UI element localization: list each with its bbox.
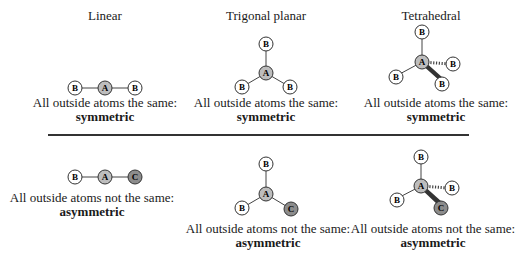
molecule-tetrahedral-asymmetric: B A B B C [390, 145, 470, 220]
svg-text:A: A [263, 189, 270, 199]
atom-b: B [390, 193, 404, 207]
caption-linear-asymmetric: All outside atoms not the same: asymmetr… [0, 191, 187, 219]
atom-b: B [415, 25, 429, 39]
atom-a: A [415, 55, 429, 69]
caption-text: All outside atoms the same: [194, 95, 338, 110]
symmetry-label: symmetric [171, 110, 361, 124]
svg-text:B: B [393, 72, 399, 82]
svg-text:B: B [450, 59, 456, 69]
symmetry-label: asymmetric [0, 205, 187, 219]
caption-text: All outside atoms not the same: [186, 221, 350, 236]
svg-text:B: B [439, 79, 445, 89]
atom-b: B [445, 181, 459, 195]
caption-tetrahedral-symmetric: All outside atoms the same: symmetric [341, 96, 522, 124]
svg-text:A: A [263, 68, 270, 78]
svg-text:B: B [132, 83, 138, 93]
atom-a: A [98, 81, 112, 95]
caption-text: All outside atoms the same: [364, 95, 508, 110]
atom-a: A [259, 187, 273, 201]
column-title-linear: Linear [25, 8, 185, 24]
svg-text:B: B [239, 203, 245, 213]
molecule-linear-asymmetric: B A C [60, 167, 150, 187]
caption-tetrahedral-asymmetric: All outside atoms not the same: asymmetr… [338, 222, 522, 250]
molecule-trigonal-planar-symmetric: B A B B [225, 30, 305, 95]
atom-c: C [128, 170, 142, 184]
atom-b: B [389, 70, 403, 84]
svg-text:B: B [72, 83, 78, 93]
svg-text:A: A [418, 181, 425, 191]
atom-b: B [259, 157, 273, 171]
row-divider [48, 134, 469, 136]
atom-b: B [68, 170, 82, 184]
caption-trigonal-asymmetric: All outside atoms not the same: asymmetr… [173, 222, 363, 250]
atom-b: B [68, 81, 82, 95]
svg-text:B: B [418, 152, 424, 162]
atom-c: C [284, 202, 298, 216]
svg-text:B: B [263, 159, 269, 169]
column-title-trigonal-planar: Trigonal planar [186, 8, 346, 24]
atom-b: B [446, 57, 460, 71]
atom-a: A [259, 66, 273, 80]
atom-b: B [435, 77, 449, 91]
caption-text: All outside atoms not the same: [10, 190, 174, 205]
svg-text:B: B [287, 82, 293, 92]
atom-b: B [235, 80, 249, 94]
svg-text:C: C [438, 203, 445, 213]
symmetry-label: symmetric [341, 110, 522, 124]
svg-text:C: C [132, 172, 139, 182]
atom-b: B [235, 201, 249, 215]
molecule-trigonal-planar-asymmetric: B A B C [225, 150, 305, 220]
caption-text: All outside atoms the same: [33, 95, 177, 110]
atom-b: B [414, 150, 428, 164]
caption-trigonal-symmetric: All outside atoms the same: symmetric [171, 96, 361, 124]
molecule-tetrahedral-symmetric: B A B B B [390, 20, 470, 95]
symmetry-label: asymmetric [338, 236, 522, 250]
svg-text:B: B [263, 39, 269, 49]
atom-b: B [283, 80, 297, 94]
caption-text: All outside atoms not the same: [351, 221, 515, 236]
svg-text:A: A [102, 172, 109, 182]
svg-text:A: A [102, 83, 109, 93]
atom-a: A [98, 170, 112, 184]
svg-text:B: B [72, 172, 78, 182]
svg-text:C: C [288, 204, 295, 214]
svg-text:B: B [394, 195, 400, 205]
atom-a: A [414, 179, 428, 193]
svg-text:B: B [449, 183, 455, 193]
svg-text:B: B [239, 82, 245, 92]
atom-c: C [434, 201, 448, 215]
symmetry-label: asymmetric [173, 236, 363, 250]
atom-b: B [259, 37, 273, 51]
atom-b: B [128, 81, 142, 95]
svg-text:B: B [419, 27, 425, 37]
svg-text:A: A [419, 57, 426, 67]
